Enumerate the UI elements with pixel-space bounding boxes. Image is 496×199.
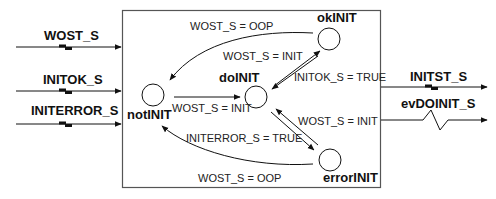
input-label-initerror: INITERROR_S	[31, 103, 119, 118]
event-connector-icon	[381, 110, 487, 130]
transition-label-do-to-error: WOST_S = INIT	[298, 115, 378, 127]
transition-label-error-to-do: INITERROR_S = TRUE	[186, 132, 302, 144]
data-connector-icon	[59, 122, 66, 125]
transition-label-error-to-not: WOST_S = OOP	[198, 172, 281, 184]
transition-label-ok-to-not: WOST_S = OOP	[190, 20, 273, 32]
state-label-doinit: doINIT	[219, 70, 259, 85]
input-label-wost: WOST_S	[44, 28, 99, 43]
transition-label-do-to-ok: WOST_S = INIT	[223, 50, 303, 62]
output-label-initst: INITST_S	[410, 69, 467, 84]
output-evdoinit: evDOINIT_S	[381, 96, 487, 130]
state-label-errorinit: errorINIT	[323, 170, 378, 185]
state-machine-diagram: WOST_S INITOK_S INITERROR_S INITST_S evD…	[0, 0, 496, 199]
input-initok: INITOK_S	[16, 72, 121, 94]
data-connector-icon	[59, 45, 66, 48]
output-initst: INITST_S	[381, 69, 487, 90]
input-wost: WOST_S	[16, 28, 121, 50]
state-label-okinit: okINIT	[317, 10, 357, 25]
input-initerror: INITERROR_S	[16, 103, 121, 127]
state-label-notinit: notINIT	[127, 107, 172, 122]
data-connector-icon	[59, 89, 66, 92]
data-connector-icon	[425, 85, 432, 88]
input-label-initok: INITOK_S	[43, 72, 103, 87]
transition-label-ok-to-do: INITOK_S = TRUE	[294, 71, 386, 83]
transition-label-not-to-do: WOST_S = INIT	[172, 102, 252, 114]
output-label-evdoinit: evDOINIT_S	[401, 96, 476, 111]
